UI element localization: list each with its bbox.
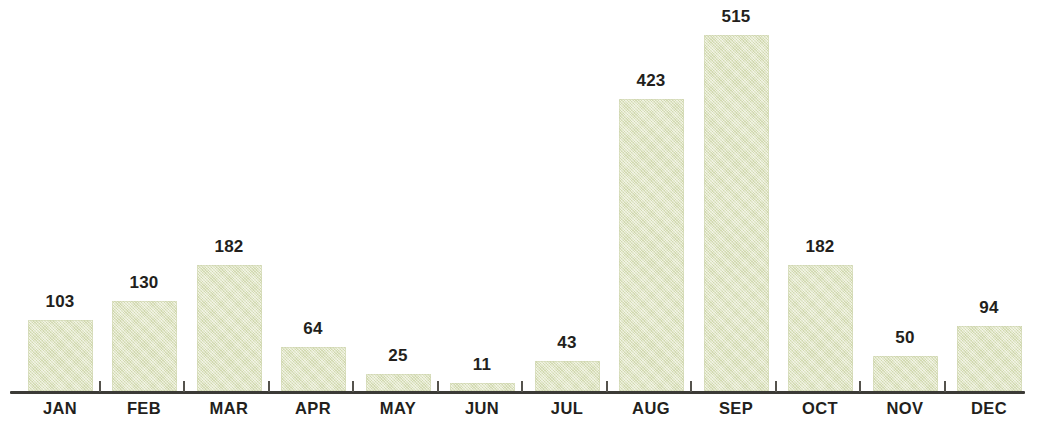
axis-tick [859, 381, 861, 392]
bar-feb[interactable] [112, 301, 177, 391]
bar-sep[interactable] [704, 35, 769, 391]
bar-column-apr[interactable]: 64 APR [278, 0, 348, 440]
bar-category-label: DEC [954, 400, 1024, 417]
bar-category-label: MAR [194, 400, 264, 417]
bar-category-label: JUN [447, 400, 517, 417]
bar-value-label: 515 [701, 8, 771, 25]
bar-value-label: 11 [447, 356, 517, 373]
plot-area: 103 JAN 130 FEB 182 MAR 64 APR 25 MAY 11 [0, 0, 1051, 440]
bar-chart: 103 JAN 130 FEB 182 MAR 64 APR 25 MAY 11 [0, 0, 1051, 440]
bar-category-label: AUG [616, 400, 686, 417]
bar-oct[interactable] [788, 265, 853, 391]
bar-column-jun[interactable]: 11 JUN [447, 0, 517, 440]
bar-category-label: FEB [109, 400, 179, 417]
axis-tick [521, 381, 523, 392]
bar-column-dec[interactable]: 94 DEC [954, 0, 1024, 440]
axis-tick [352, 381, 354, 392]
axis-tick [99, 381, 101, 392]
bar-apr[interactable] [281, 347, 346, 391]
bar-value-label: 94 [954, 299, 1024, 316]
bar-column-jul[interactable]: 43 JUL [532, 0, 602, 440]
bar-jan[interactable] [28, 320, 93, 391]
bar-category-label: NOV [870, 400, 940, 417]
axis-tick [268, 381, 270, 392]
bar-column-sep[interactable]: 515 SEP [701, 0, 771, 440]
bar-value-label: 130 [109, 274, 179, 291]
bar-value-label: 25 [363, 347, 433, 364]
bar-value-label: 423 [616, 72, 686, 89]
bar-nov[interactable] [873, 356, 938, 391]
bar-aug[interactable] [619, 99, 684, 391]
bar-column-nov[interactable]: 50 NOV [870, 0, 940, 440]
bar-category-label: MAY [363, 400, 433, 417]
bar-category-label: APR [278, 400, 348, 417]
bar-category-label: JAN [25, 400, 95, 417]
bar-value-label: 103 [25, 293, 95, 310]
axis-tick [437, 381, 439, 392]
axis-tick [183, 381, 185, 392]
bar-jun[interactable] [450, 383, 515, 391]
axis-tick [606, 381, 608, 392]
bar-may[interactable] [366, 374, 431, 391]
bar-column-may[interactable]: 25 MAY [363, 0, 433, 440]
bar-value-label: 182 [194, 238, 264, 255]
bar-category-label: OCT [785, 400, 855, 417]
axis-tick [690, 381, 692, 392]
bar-value-label: 64 [278, 320, 348, 337]
bar-value-label: 43 [532, 334, 602, 351]
bar-mar[interactable] [197, 265, 262, 391]
bar-value-label: 50 [870, 329, 940, 346]
bar-column-mar[interactable]: 182 MAR [194, 0, 264, 440]
bar-dec[interactable] [957, 326, 1022, 391]
bar-category-label: SEP [701, 400, 771, 417]
bar-jul[interactable] [535, 361, 600, 391]
bar-value-label: 182 [785, 238, 855, 255]
axis-tick [944, 381, 946, 392]
bar-column-oct[interactable]: 182 OCT [785, 0, 855, 440]
bar-column-aug[interactable]: 423 AUG [616, 0, 686, 440]
bar-column-feb[interactable]: 130 FEB [109, 0, 179, 440]
axis-tick [775, 381, 777, 392]
bar-category-label: JUL [532, 400, 602, 417]
bar-column-jan[interactable]: 103 JAN [25, 0, 95, 440]
